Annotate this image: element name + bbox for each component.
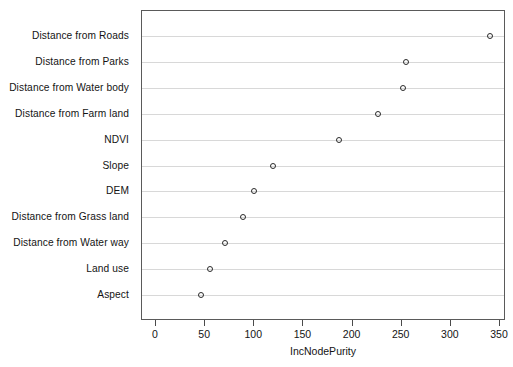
gridline: [142, 114, 504, 115]
category-label: Distance from Grass land: [0, 211, 129, 222]
data-point: [198, 292, 204, 298]
data-point: [222, 240, 228, 246]
x-tick-label: 50: [198, 328, 210, 340]
x-tick-mark: [155, 320, 156, 326]
category-label: Distance from Water way: [0, 237, 129, 248]
x-tick-label: 100: [245, 328, 263, 340]
gridline: [142, 191, 504, 192]
gridline: [142, 243, 504, 244]
category-label: NDVI: [0, 133, 129, 144]
x-tick-mark: [450, 320, 451, 326]
gridline: [142, 269, 504, 270]
data-point: [487, 33, 493, 39]
gridline: [142, 166, 504, 167]
category-label: Distance from Roads: [0, 30, 129, 41]
dotchart-figure: Distance from RoadsDistance from ParksDi…: [0, 0, 513, 367]
data-point: [403, 59, 409, 65]
category-label: Aspect: [0, 289, 129, 300]
category-label: Slope: [0, 159, 129, 170]
x-tick-label: 250: [392, 328, 410, 340]
data-point: [240, 214, 246, 220]
data-point: [270, 163, 276, 169]
gridline: [142, 36, 504, 37]
gridline: [142, 62, 504, 63]
x-tick-mark: [253, 320, 254, 326]
x-tick-mark: [302, 320, 303, 326]
category-label: Distance from Water body: [0, 81, 129, 92]
x-tick-label: 300: [441, 328, 459, 340]
gridline: [142, 140, 504, 141]
data-point: [336, 137, 342, 143]
x-tick-mark: [352, 320, 353, 326]
x-tick-label: 0: [152, 328, 158, 340]
gridline: [142, 295, 504, 296]
x-axis-title: IncNodePurity: [141, 345, 505, 357]
plot-area: [141, 10, 505, 320]
data-point: [375, 111, 381, 117]
x-tick-label: 200: [343, 328, 361, 340]
category-label: DEM: [0, 185, 129, 196]
data-point: [251, 188, 257, 194]
x-tick-label: 350: [490, 328, 508, 340]
category-label: Distance from Parks: [0, 55, 129, 66]
gridline: [142, 217, 504, 218]
x-tick-mark: [401, 320, 402, 326]
category-label: Land use: [0, 263, 129, 274]
gridline: [142, 88, 504, 89]
x-tick-label: 150: [294, 328, 312, 340]
category-label: Distance from Farm land: [0, 107, 129, 118]
x-axis: IncNodePurity 050100150200250300350: [141, 320, 505, 367]
category-axis-labels: Distance from RoadsDistance from ParksDi…: [0, 0, 133, 367]
x-tick-mark: [204, 320, 205, 326]
data-point: [400, 85, 406, 91]
x-tick-mark: [499, 320, 500, 326]
data-point: [207, 266, 213, 272]
